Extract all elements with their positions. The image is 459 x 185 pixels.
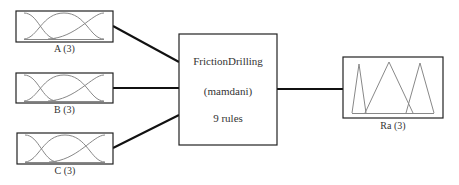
connector-a-to-system bbox=[113, 26, 179, 62]
input-box-b[interactable] bbox=[16, 73, 113, 103]
input-box-a[interactable] bbox=[16, 11, 113, 42]
fis-rules-count: 9 rules bbox=[179, 112, 277, 124]
connector-c-to-system bbox=[113, 115, 179, 148]
output-box-ra[interactable] bbox=[343, 57, 443, 118]
fis-method: (mamdani) bbox=[179, 85, 277, 97]
output-label-ra: Ra (3) bbox=[343, 120, 443, 131]
input-label-a: A (3) bbox=[16, 43, 113, 54]
fis-name: FrictionDrilling bbox=[179, 55, 277, 67]
input-box-c[interactable] bbox=[17, 133, 113, 164]
input-label-b: B (3) bbox=[16, 104, 113, 115]
input-label-c: C (3) bbox=[17, 165, 113, 176]
